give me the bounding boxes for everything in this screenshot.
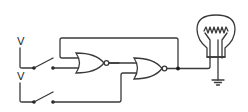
switch-1 [20,48,78,70]
nor-1-body [76,53,104,73]
nor-2-bubble [162,66,167,71]
input-2-wire [20,83,34,102]
nor-gate-1 [76,53,109,73]
nor-1-bubble [104,61,109,66]
switch-2 [20,73,137,104]
switch-1-lever [34,58,53,68]
nor-gate-2 [134,58,167,79]
switch-2-to-nor-2-wire [53,73,137,102]
nor-2-to-bulb-wire [167,58,210,69]
bulb-filament-supports [205,33,227,58]
light-bulb-icon [197,15,235,58]
nor-2-body [134,58,162,79]
circuit-diagram: V V [0,0,248,112]
output-junction [176,67,180,71]
circuit-schematic [0,0,248,112]
bulb-filament [204,27,228,33]
input-1-wire [20,48,34,68]
switch-2-lever [34,92,53,102]
bulb-glass [197,15,235,57]
